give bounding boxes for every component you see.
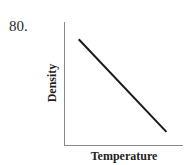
x-axis-label: Temperature <box>91 150 158 162</box>
density-temperature-line <box>79 39 167 132</box>
y-axis-label: Density <box>46 64 58 103</box>
chart-plot-area <box>0 0 196 165</box>
